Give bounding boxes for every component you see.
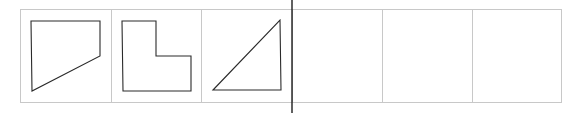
trapezoid-shape — [31, 21, 100, 91]
shapes — [31, 20, 281, 91]
grid-cell-5-empty — [383, 10, 473, 103]
shape-sequence-figure — [0, 0, 577, 117]
grid-cell-6-empty — [473, 10, 562, 103]
grid-cell-1-trapezoid — [21, 10, 112, 103]
right-triangle-shape — [213, 20, 281, 90]
answer-grid — [21, 10, 562, 103]
grid-cell-4-empty — [293, 10, 383, 103]
figure-canvas — [0, 0, 577, 117]
grid-cell-3-right-triangle — [202, 10, 293, 103]
l-shape-shape — [122, 21, 191, 91]
